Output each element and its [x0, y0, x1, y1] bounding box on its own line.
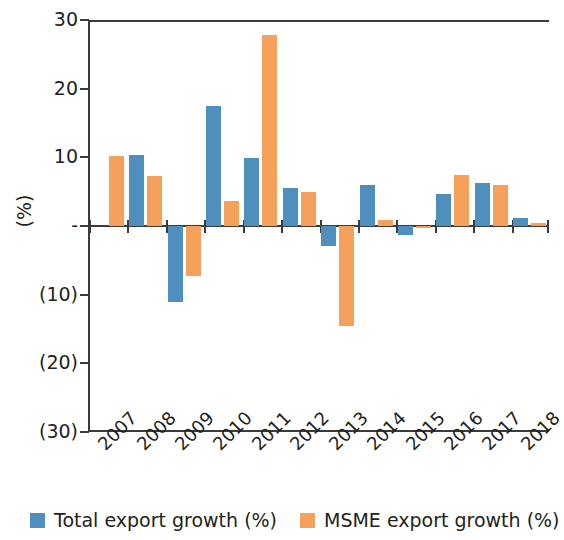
legend-swatch-icon-total	[30, 513, 45, 528]
x-axis-tick-label: 2012	[287, 409, 332, 454]
x-axis-tick-label: 2013	[326, 409, 371, 454]
x-axis-tick-label: 2017	[479, 409, 524, 454]
x-axis-tick-label: 2011	[249, 409, 294, 454]
legend-label-msme: MSME export growth (%)	[324, 511, 560, 530]
legend-swatch-icon-msme	[300, 513, 315, 528]
legend-item-msme-export-growth: MSME export growth (%)	[300, 511, 560, 530]
x-axis-tick-label: 2015	[403, 409, 448, 454]
x-axis-tick-label: 2009	[172, 409, 217, 454]
chart-legend: Total export growth (%) MSME export grow…	[0, 508, 555, 540]
legend-item-total-export-growth: Total export growth (%)	[30, 511, 277, 530]
legend-label-total: Total export growth (%)	[54, 511, 277, 530]
x-axis-tick-label: 2018	[518, 409, 563, 454]
x-axis-tick-label: 2014	[364, 409, 409, 454]
x-axis-tick-label: 2007	[95, 409, 140, 454]
x-axis-tick-label: 2016	[441, 409, 486, 454]
x-axis-tick-label: 2010	[210, 409, 255, 454]
x-axis-tick-label: 2008	[134, 409, 179, 454]
